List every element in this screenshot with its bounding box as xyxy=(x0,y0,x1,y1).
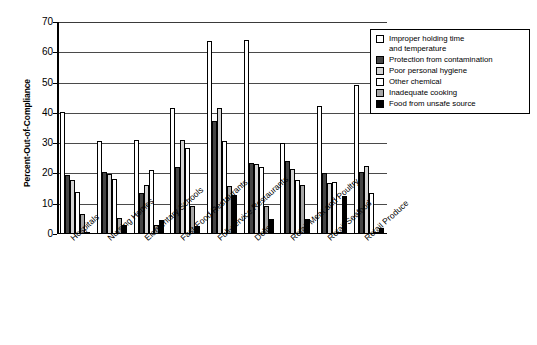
bar-group xyxy=(277,22,314,234)
legend-label: Improper holding time and temperature xyxy=(389,34,464,53)
y-tick-10: 10 xyxy=(42,199,53,209)
y-axis-title: Percent-Out-of-Compliance xyxy=(22,48,32,218)
legend-label: Food from unsafe source xyxy=(389,99,476,109)
legend-swatch-icon xyxy=(376,89,384,97)
x-tick-labels: HospitalsNursing HomesElementary Schools… xyxy=(57,234,387,344)
legend-item: Poor personal hygiene xyxy=(376,66,524,76)
y-tick-mark-30 xyxy=(53,143,57,144)
y-tick-mark-50 xyxy=(53,83,57,84)
bar-group xyxy=(94,22,131,234)
y-tick-mark-40 xyxy=(53,113,57,114)
y-tick-mark-20 xyxy=(53,173,57,174)
y-tick-60: 60 xyxy=(42,47,53,57)
bar-chart: Percent-Out-of-Compliance 01020304050607… xyxy=(0,0,537,345)
legend-label: Other chemical xyxy=(389,77,441,87)
y-tick-mark-60 xyxy=(53,52,57,53)
legend-swatch-icon xyxy=(376,100,384,108)
legend-item: Inadequate cooking xyxy=(376,88,524,98)
legend-swatch-icon xyxy=(376,56,384,64)
legend-item: Improper holding time and temperature xyxy=(376,34,524,53)
y-tick-20: 20 xyxy=(42,168,53,178)
legend: Improper holding time and temperaturePro… xyxy=(370,29,530,114)
y-tick-40: 40 xyxy=(42,108,53,118)
legend-label: Inadequate cooking xyxy=(389,88,457,98)
y-tick-mark-10 xyxy=(53,204,57,205)
legend-label: Protection from contamination xyxy=(389,55,493,65)
legend-item: Protection from contamination xyxy=(376,55,524,65)
y-tick-70: 70 xyxy=(42,17,53,27)
y-axis-line xyxy=(57,22,59,234)
legend-swatch-icon xyxy=(376,78,384,86)
legend-item: Food from unsafe source xyxy=(376,99,524,109)
y-tick-30: 30 xyxy=(42,138,53,148)
y-tick-mark-70 xyxy=(53,22,57,23)
y-tick-50: 50 xyxy=(42,78,53,88)
legend-label: Poor personal hygiene xyxy=(389,66,467,76)
legend-item: Other chemical xyxy=(376,77,524,87)
legend-swatch-icon xyxy=(376,35,384,43)
legend-swatch-icon xyxy=(376,67,384,75)
bar-group xyxy=(57,22,94,234)
